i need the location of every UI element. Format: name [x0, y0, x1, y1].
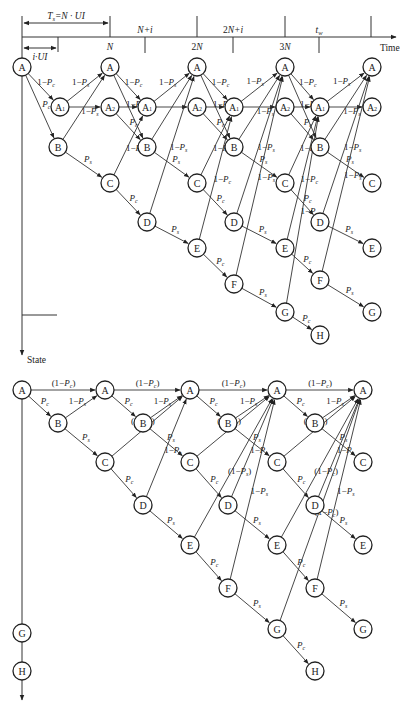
- state-node-a₁: A1: [51, 98, 69, 116]
- bottom-diagram-nodes: ABACBDACEBDFACEGBDFHACEGGH: [13, 381, 372, 680]
- edge-probability-label: 1−Ps: [258, 172, 276, 183]
- state-node-b: B: [225, 138, 243, 156]
- svg-text:C: C: [194, 178, 201, 189]
- state-node-c: C: [101, 174, 119, 192]
- state-node-d: D: [138, 213, 156, 231]
- tick-label-2N-plus-i: 2N+i: [223, 25, 243, 35]
- edge-probability-label: Ps: [252, 515, 262, 526]
- edge-probability-label: 1−Ps: [72, 77, 90, 88]
- edge-probability-label: 1−Pc: [299, 77, 317, 88]
- edge-probability-label: Pc: [301, 313, 311, 324]
- edge-probability-label: Pc: [209, 557, 219, 568]
- svg-text:B: B: [55, 142, 62, 153]
- edge-probability-label: Pc: [124, 474, 134, 485]
- state-node-a₁: A1: [225, 98, 243, 116]
- state-node-h: H: [306, 662, 324, 680]
- svg-text:E: E: [282, 243, 288, 254]
- state-node-d: D: [306, 496, 324, 514]
- edge-probability-label: Pc: [215, 256, 225, 267]
- state-node-a: A: [188, 58, 206, 76]
- edge-probability-label: Ps: [252, 598, 262, 609]
- state-node-a₁: A1: [311, 98, 329, 116]
- edge-probability-label: 1−Pc: [37, 77, 55, 88]
- svg-text:C: C: [369, 178, 376, 189]
- svg-text:B: B: [317, 142, 324, 153]
- diagram-svg: Ts=N · UI i·UI N N+i 2N 2N+i 3N tw Time …: [0, 0, 401, 706]
- svg-text:A: A: [273, 385, 281, 396]
- state-node-e: E: [276, 239, 294, 257]
- edge-probability-label: Pc: [216, 117, 226, 128]
- svg-text:G: G: [368, 307, 375, 318]
- svg-text:D: D: [139, 500, 146, 511]
- state-node-e: E: [354, 536, 372, 554]
- state-node-g: G: [13, 624, 31, 642]
- edge-probability-label: 1−Ps: [246, 76, 264, 87]
- svg-text:A: A: [106, 62, 114, 73]
- state-node-f: F: [306, 579, 324, 597]
- time-axis-label: Time: [380, 43, 400, 53]
- state-node-a: A: [354, 381, 372, 399]
- svg-text:A: A: [18, 385, 26, 396]
- svg-text:D: D: [316, 217, 323, 228]
- state-node-e: E: [363, 239, 381, 257]
- svg-text:F: F: [225, 583, 231, 594]
- svg-text:C: C: [107, 178, 114, 189]
- state-node-b: B: [134, 414, 152, 432]
- tick-label-tw: tw: [316, 25, 324, 36]
- svg-text:E: E: [187, 540, 193, 551]
- state-node-a₂: A2: [276, 98, 294, 116]
- transition-arrow: [150, 511, 183, 539]
- state-node-b: B: [219, 414, 237, 432]
- svg-text:F: F: [312, 583, 318, 594]
- edge-probability-label: 1−Ps: [344, 170, 362, 181]
- state-node-b: B: [306, 414, 324, 432]
- edge-probability-label: Pc: [296, 640, 306, 651]
- edge-probability-label: (1−Ps): [228, 466, 251, 477]
- edge-probability-label: Pc: [296, 474, 306, 485]
- svg-text:A: A: [281, 62, 289, 73]
- i-ui-interval-label: i·UI: [32, 52, 48, 62]
- svg-text:A: A: [18, 62, 26, 73]
- edge-probability-label: Ps: [83, 154, 93, 165]
- svg-text:G: G: [18, 628, 25, 639]
- edge-probability-label: Ps: [345, 285, 355, 296]
- ts-interval-label: Ts=N · UI: [47, 11, 86, 22]
- edge-probability-label: 1−Pc: [212, 77, 230, 88]
- state-node-c: C: [354, 453, 372, 471]
- svg-text:E: E: [274, 540, 280, 551]
- edge-probability-label: 1−Ps: [250, 445, 268, 456]
- state-node-d: D: [311, 213, 329, 231]
- state-node-c: C: [188, 174, 206, 192]
- edge-probability-label: Pc: [40, 396, 50, 407]
- edge-probability-label: 1−Ps: [164, 445, 182, 456]
- svg-text:D: D: [143, 217, 150, 228]
- state-node-g: G: [268, 620, 286, 638]
- edge-probability-label: 1−Ps: [333, 76, 351, 87]
- svg-text:F: F: [231, 279, 237, 290]
- state-node-c: C: [96, 453, 114, 471]
- edge-probability-label: (1−Pc): [308, 378, 332, 389]
- state-node-g: G: [276, 303, 294, 321]
- state-node-d: D: [134, 496, 152, 514]
- transition-arrow: [322, 594, 356, 623]
- svg-text:A: A: [359, 385, 367, 396]
- edge-probability-label: 1−Ps: [69, 396, 87, 407]
- state-node-e: E: [181, 536, 199, 554]
- state-node-g: G: [363, 303, 381, 321]
- state-node-a₂: A2: [101, 98, 119, 116]
- state-node-a₂: A2: [188, 98, 206, 116]
- state-node-f: F: [225, 275, 243, 293]
- edge-probability-label: Ps: [339, 598, 349, 609]
- edge-probability-label: 1−Ps: [170, 142, 188, 153]
- state-node-f: F: [311, 271, 329, 289]
- edge-probability-label: Ps: [258, 224, 268, 235]
- svg-text:H: H: [311, 666, 318, 677]
- state-node-a: A: [276, 58, 294, 76]
- state-node-a: A: [181, 381, 199, 399]
- svg-text:B: B: [144, 142, 151, 153]
- edge-probability-label: Pc: [129, 117, 139, 128]
- state-node-a: A: [96, 381, 114, 399]
- svg-text:C: C: [274, 457, 281, 468]
- state-transition-diagrams: Ts=N · UI i·UI N N+i 2N 2N+i 3N tw Time …: [0, 0, 401, 706]
- state-node-h: H: [311, 326, 329, 344]
